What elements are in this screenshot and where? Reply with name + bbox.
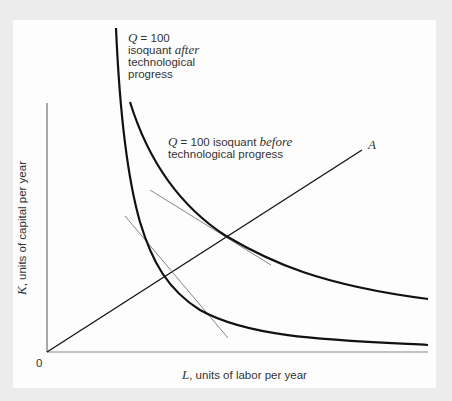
x-axis-label: L, units of labor per year	[182, 369, 307, 381]
tangent-after	[125, 216, 228, 338]
y-axis-label: K, units of capital per year	[14, 161, 30, 295]
tangent-before	[150, 190, 271, 265]
label-before-isoquant: Q = 100 isoquant before technological pr…	[168, 136, 292, 160]
label-after-isoquant: Q = 100 isoquant after technological pro…	[128, 32, 199, 80]
isoquant-chart	[0, 0, 452, 401]
label-ray-a: A	[368, 139, 376, 151]
ray-a	[47, 150, 362, 352]
origin-label: 0	[36, 357, 42, 369]
